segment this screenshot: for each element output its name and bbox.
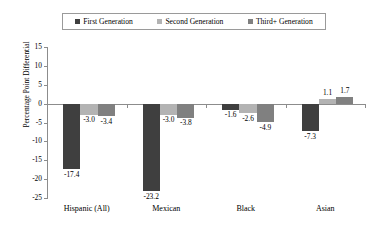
legend-item-label: First Generation — [83, 18, 133, 26]
y-axis-tick — [44, 104, 48, 105]
bar — [98, 104, 115, 117]
square-marker-icon — [248, 19, 253, 24]
y-axis-tick — [44, 66, 48, 67]
y-axis-tick-label: 10 — [35, 62, 42, 69]
bar-value-label: -2.6 — [242, 115, 254, 122]
x-axis-category-label: Mexican — [152, 205, 180, 213]
y-axis-tick-label: 0 — [38, 100, 42, 107]
x-axis-category-label: Asian — [316, 205, 335, 213]
y-axis-tick-label: 15 — [35, 43, 42, 50]
y-axis-tick — [44, 160, 48, 161]
bar-value-label: -3.0 — [83, 116, 95, 123]
x-axis-tick — [286, 104, 287, 108]
y-axis-tick-label: 5 — [38, 81, 42, 88]
x-axis-category-label: Black — [236, 205, 255, 213]
y-axis-tick — [44, 123, 48, 124]
y-axis-tick — [44, 198, 48, 199]
plot-area: 151050-5-10-15-20-25-17.4-3.0-3.4Hispani… — [47, 47, 365, 198]
legend-item[interactable]: First Generation — [75, 18, 133, 26]
bar-value-label: -17.4 — [64, 171, 79, 178]
bar — [239, 104, 256, 114]
legend-item[interactable]: Third+ Generation — [248, 18, 313, 26]
bar — [319, 99, 336, 103]
bar-value-label: -7.3 — [304, 133, 316, 140]
bar — [257, 104, 274, 122]
bar-value-label: 1.7 — [340, 87, 349, 94]
bar — [222, 104, 239, 110]
bar — [63, 104, 80, 170]
x-axis-tick — [127, 104, 128, 108]
bar — [143, 104, 160, 192]
y-axis-tick-label: -15 — [32, 157, 42, 164]
bar — [177, 104, 194, 118]
legend-item[interactable]: Second Generation — [157, 18, 223, 26]
legend-item-label: Second Generation — [165, 18, 223, 26]
bar-chart: First GenerationSecond GenerationThird+ … — [0, 0, 386, 225]
legend-item-label: Third+ Generation — [256, 18, 313, 26]
y-axis-tick — [44, 85, 48, 86]
bar — [160, 104, 177, 115]
bar-value-label: -4.9 — [259, 124, 271, 131]
bar — [336, 97, 353, 103]
bar-value-label: -3.4 — [100, 118, 112, 125]
y-axis-tick-label: -20 — [32, 175, 42, 182]
y-axis-tick — [44, 141, 48, 142]
y-axis-tick-label: -10 — [32, 138, 42, 145]
y-axis-title: Percentage Point Differential — [22, 15, 31, 155]
y-axis-tick-label: -5 — [36, 119, 42, 126]
bar-value-label: -3.0 — [163, 116, 175, 123]
bar-value-label: -1.6 — [225, 111, 237, 118]
square-marker-icon — [157, 19, 162, 24]
bar — [80, 104, 97, 115]
bar — [302, 104, 319, 132]
y-axis-tick — [44, 179, 48, 180]
x-axis-tick — [365, 104, 366, 108]
y-axis-tick-label: -25 — [32, 194, 42, 201]
chart-legend: First GenerationSecond GenerationThird+ … — [62, 13, 326, 30]
x-axis-tick — [206, 104, 207, 108]
bar-value-label: 1.1 — [323, 89, 332, 96]
x-axis-category-label: Hispanic (All) — [64, 205, 110, 213]
bar-value-label: -3.8 — [180, 119, 192, 126]
bar-value-label: -23.2 — [143, 193, 158, 200]
y-axis-tick — [44, 47, 48, 48]
square-marker-icon — [75, 19, 80, 24]
